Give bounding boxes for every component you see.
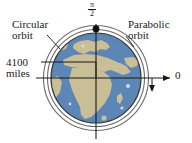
angle-pi-over-two-label: π 2 [84, 1, 100, 18]
land-speck-1 [126, 84, 130, 88]
circular-orbit-label: Circular orbit [12, 19, 48, 41]
parabolic-orbit-label: Parabolic orbit [128, 19, 170, 41]
angle-numerator: π [84, 1, 100, 9]
angle-denominator: 2 [84, 10, 100, 18]
satellite-marker-dot [93, 26, 100, 33]
land-speck-3 [69, 103, 72, 106]
orbit-diagram-figure: Circular orbit Parabolic orbit 4100 mile… [0, 0, 192, 143]
circular-orbit-label-line2: orbit [12, 30, 48, 41]
land-speck-5 [81, 44, 84, 47]
land-speck-4 [101, 115, 106, 120]
horizontal-axis-arrowhead [163, 75, 170, 81]
direction-arrow-head [149, 85, 155, 92]
land-speck-2 [120, 106, 123, 109]
radius-distance-unit: miles [6, 68, 30, 79]
angle-zero-label: 0 [175, 70, 181, 81]
radius-distance-label: 4100 miles [6, 57, 30, 79]
parabolic-orbit-label-line2: orbit [128, 30, 170, 41]
